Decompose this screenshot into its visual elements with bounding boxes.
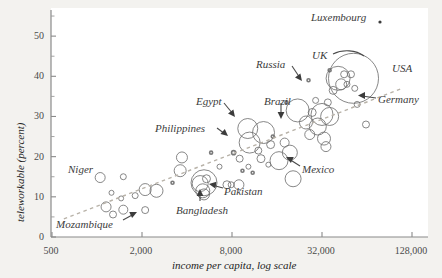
annotation-label-niger: Niger (68, 163, 93, 175)
x-tick-label: 500 (44, 245, 59, 256)
x-tick-label: 8,000 (220, 245, 243, 256)
y-axis-title: teleworkable (percent) (14, 123, 26, 222)
annotation-label-bangladesh: Bangladesh (176, 204, 228, 216)
annotation-label-mozambique: Mozambique (56, 218, 113, 230)
annotation-label-luxembourg: Luxembourg (311, 11, 366, 23)
y-tick-label: 10 (34, 191, 44, 202)
y-tick-label: 30 (34, 110, 44, 121)
plot-canvas (0, 0, 442, 278)
x-tick-label: 128,000 (395, 245, 428, 256)
y-tick-label: 40 (34, 70, 44, 81)
annotation-label-philippines: Philippines (155, 122, 205, 134)
y-tick-label: 50 (34, 30, 44, 41)
bubble-chart-figure: teleworkable (percent) income per capita… (0, 0, 442, 278)
annotation-label-russia: Russia (256, 58, 285, 70)
y-tick-label: 0 (39, 231, 44, 242)
annotation-label-brazil: Brazil (264, 95, 291, 107)
annotation-label-germany: Germany (378, 93, 419, 105)
y-tick-label: 20 (34, 151, 44, 162)
x-tick-label: 2,000 (130, 245, 153, 256)
x-tick-label: 32,000 (307, 245, 335, 256)
x-axis-title: income per capita, log scale (172, 259, 296, 271)
annotation-label-mexico: Mexico (302, 163, 334, 175)
annotation-dot (378, 20, 381, 23)
annotation-label-egypt: Egypt (196, 95, 222, 107)
annotation-label-pakistan: Pakistan (224, 185, 263, 197)
annotation-label-uk: UK (312, 49, 327, 61)
annotation-label-usa: USA (392, 62, 412, 74)
